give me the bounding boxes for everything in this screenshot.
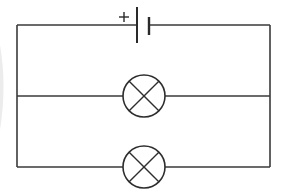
circuit-diagram: + [0,0,283,196]
lamp-2 [123,146,165,188]
plus-sign-icon [119,12,129,22]
edge-shadow [0,45,4,130]
lamp-1 [123,75,165,117]
